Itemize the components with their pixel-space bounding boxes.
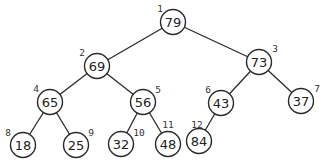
node-index-label: 3	[272, 43, 278, 54]
tree-node: 565	[131, 84, 161, 115]
node-value: 79	[165, 15, 182, 30]
node-value: 56	[135, 95, 152, 110]
node-value: 73	[251, 55, 268, 70]
node-value: 32	[113, 137, 130, 152]
tree-node: 692	[79, 47, 109, 79]
tree-node: 8412	[187, 119, 212, 154]
node-index-label: 11	[162, 119, 174, 130]
node-value: 43	[213, 96, 230, 111]
node-index-label: 4	[33, 83, 39, 94]
nodes-layer: 791692733654565436377188259321048118412	[5, 3, 320, 158]
node-value: 69	[89, 59, 106, 74]
node-index-label: 8	[5, 127, 11, 138]
node-value: 65	[42, 95, 59, 110]
node-value: 84	[191, 134, 208, 149]
node-index-label: 6	[205, 84, 211, 95]
tree-node: 654	[33, 83, 62, 115]
node-index-label: 12	[191, 119, 202, 130]
tree-node: 436	[205, 84, 233, 116]
node-value: 48	[160, 137, 177, 152]
tree-node: 733	[247, 43, 278, 75]
node-index-label: 9	[88, 127, 94, 138]
node-value: 18	[15, 138, 32, 153]
tree-node: 4811	[156, 119, 181, 157]
node-index-label: 1	[157, 3, 163, 14]
node-value: 25	[68, 138, 85, 153]
tree-node: 3210	[109, 127, 145, 157]
node-index-label: 2	[79, 47, 85, 58]
node-index-label: 10	[133, 127, 145, 138]
node-index-label: 7	[314, 83, 320, 94]
tree-edge	[173, 22, 259, 62]
tree-node: 377	[289, 83, 320, 114]
binary-tree-diagram: 791692733654565436377188259321048118412	[0, 0, 323, 164]
node-index-label: 5	[155, 84, 161, 95]
tree-node: 791	[157, 3, 185, 35]
tree-canvas: 791692733654565436377188259321048118412	[0, 0, 323, 164]
node-value: 37	[293, 94, 310, 109]
